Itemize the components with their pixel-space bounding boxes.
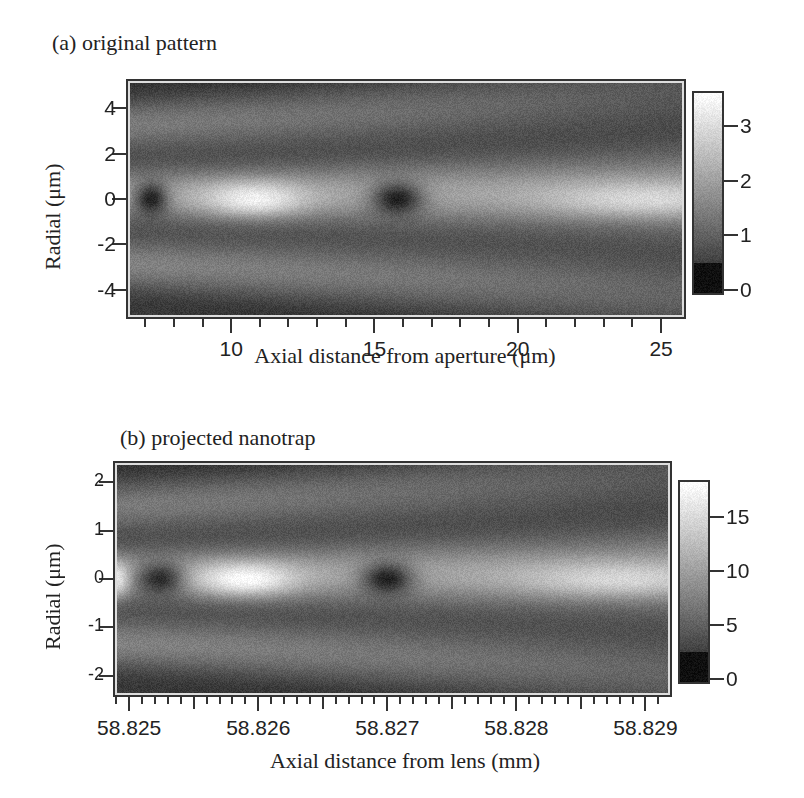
panel-a-xlabel: Axial distance from aperture (μm) [254,343,555,369]
colorbar-tick-label: 15 [726,505,749,529]
x-minor-tick [619,697,621,704]
x-major-tick [386,697,388,711]
x-tick-label: 58.827 [355,716,419,740]
x-tick-label: 58.826 [226,716,290,740]
x-minor-tick [180,697,182,704]
x-tick-label: 58.825 [97,716,161,740]
x-major-tick [128,697,130,711]
x-minor-tick [580,697,582,709]
x-minor-tick [231,697,233,704]
x-minor-tick [567,697,569,704]
panel-a-colorbar [692,91,724,295]
colorbar-tick [710,570,724,572]
x-minor-tick [477,697,479,704]
x-major-tick [373,319,375,333]
x-minor-tick [402,319,404,327]
colorbar-tick-label: 0 [726,667,738,691]
y-tick-label: -2 [88,664,104,685]
colorbar-tick-label: 5 [726,613,738,637]
x-tick-label: 10 [219,337,242,361]
x-tick-label: 58.828 [484,716,548,740]
panel-a-ylabel: Radial (μm) [40,164,66,271]
x-minor-tick [593,697,595,704]
y-tick-label: -2 [97,232,116,256]
colorbar-tick-label: 0 [740,278,752,302]
x-major-tick [515,697,517,711]
x-minor-tick [173,319,175,327]
x-minor-tick [283,697,285,704]
x-tick-label: 58.829 [613,716,677,740]
x-minor-tick [431,319,433,327]
x-major-tick [644,697,646,711]
x-minor-tick [345,319,347,327]
x-minor-tick [490,697,492,704]
x-minor-tick [202,319,204,327]
x-minor-tick [270,697,272,704]
x-minor-tick [459,319,461,327]
x-minor-tick [244,697,246,704]
x-minor-tick [574,319,576,327]
x-minor-tick [545,319,547,327]
panel-a-title: (a) original pattern [52,30,217,56]
x-major-tick [257,697,259,711]
colorbar-tick [724,180,738,182]
colorbar-tick-label: 1 [740,223,752,247]
y-tick-label: 1 [94,519,104,540]
x-minor-tick [603,319,605,327]
x-minor-tick [412,697,414,704]
y-tick-label: 2 [104,142,116,166]
x-minor-tick [115,697,117,704]
x-minor-tick [167,697,169,704]
x-minor-tick [348,697,350,704]
x-minor-tick [144,319,146,327]
x-minor-tick [632,697,634,704]
colorbar-tick-label: 3 [740,114,752,138]
y-tick-label: -4 [97,278,116,302]
x-minor-tick [335,697,337,704]
x-major-tick [230,319,232,333]
panel-b-xlabel: Axial distance from lens (mm) [270,748,540,774]
panel-b-title: (b) projected nanotrap [120,425,315,451]
x-minor-tick [438,697,440,704]
x-minor-tick [309,697,311,704]
x-minor-tick [193,697,195,709]
x-major-tick [660,319,662,333]
panel-b-colorbar [678,480,710,684]
colorbar-tick [710,516,724,518]
panel-a-frame [126,79,686,319]
x-minor-tick [287,319,289,327]
y-tick-label: 0 [94,567,104,588]
y-tick-label: 0 [104,187,116,211]
x-minor-tick [296,697,298,704]
x-minor-tick [219,697,221,704]
x-minor-tick [606,697,608,704]
colorbar-tick [724,234,738,236]
x-minor-tick [141,697,143,704]
colorbar-tick [710,624,724,626]
x-minor-tick [206,697,208,704]
x-minor-tick [316,319,318,327]
colorbar-tick [724,289,738,291]
x-minor-tick [554,697,556,704]
colorbar-tick [710,678,724,680]
x-minor-tick [259,319,261,327]
x-minor-tick [399,697,401,704]
x-minor-tick [373,697,375,704]
x-minor-tick [154,697,156,704]
panel-b-ylabel: Radial (μm) [40,544,66,651]
y-tick-label: 4 [104,96,116,120]
x-minor-tick [322,697,324,709]
x-tick-label: 25 [649,337,672,361]
x-minor-tick [657,697,659,704]
y-tick-label: -1 [88,615,104,636]
x-minor-tick [488,319,490,327]
x-minor-tick [631,319,633,327]
panel-b-frame [113,461,672,697]
x-minor-tick [425,697,427,704]
x-minor-tick [464,697,466,704]
colorbar-tick-label: 2 [740,169,752,193]
x-major-tick [517,319,519,333]
x-minor-tick [451,697,453,709]
x-minor-tick [528,697,530,704]
x-minor-tick [361,697,363,704]
